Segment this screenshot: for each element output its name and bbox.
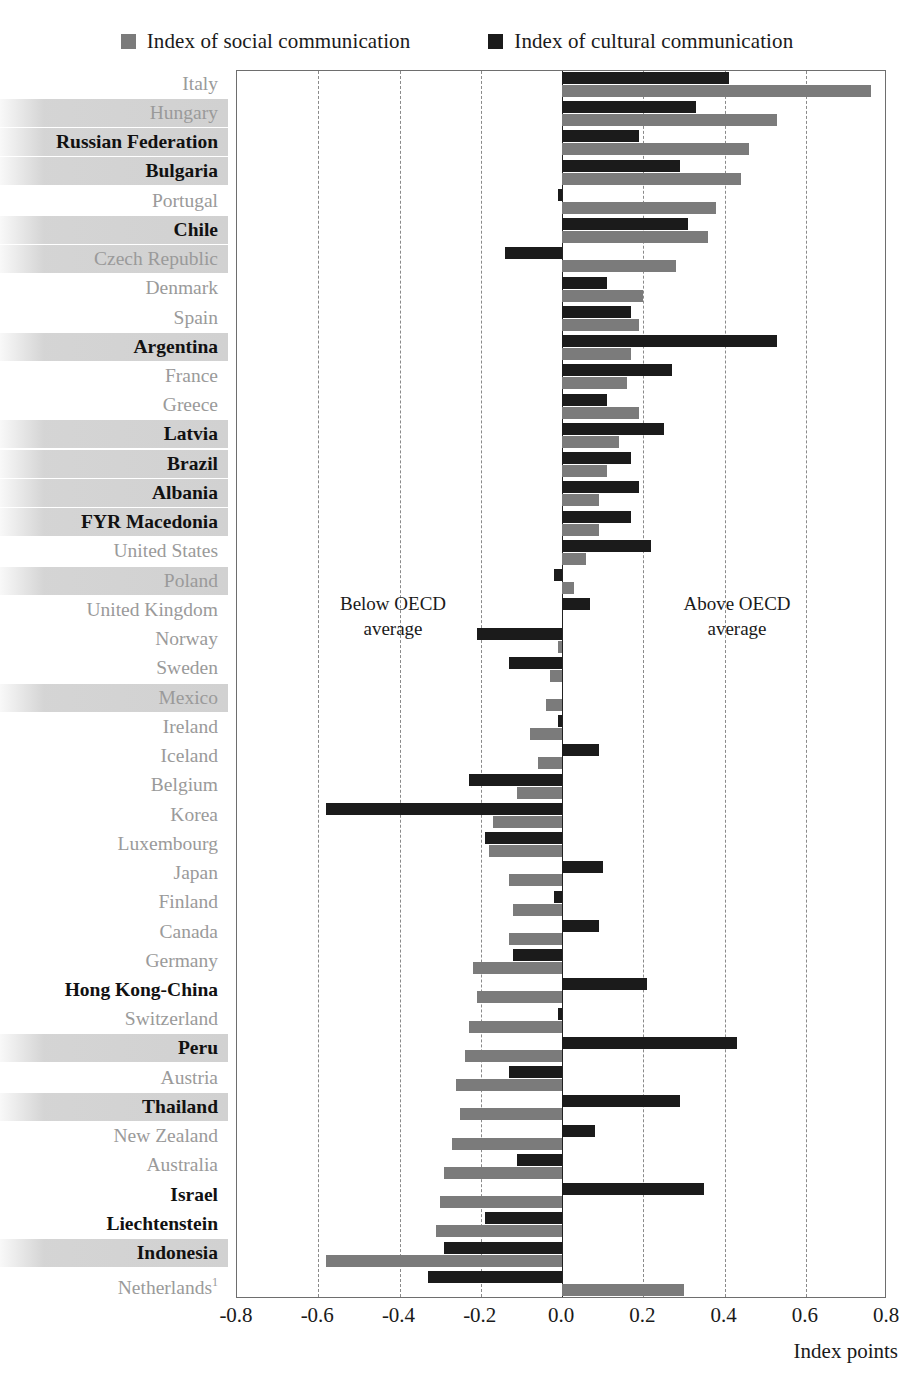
legend-item-cultural: Index of cultural communication — [488, 31, 793, 52]
country-label: Albania — [0, 479, 228, 507]
country-label: Greece — [0, 391, 228, 419]
country-label: Canada — [0, 918, 228, 946]
bar-cultural — [562, 1183, 704, 1195]
chart-row — [237, 159, 885, 188]
chart-row — [237, 129, 885, 158]
country-label-text: Belgium — [151, 774, 218, 795]
country-label-text: Australia — [147, 1154, 218, 1175]
bar-social — [444, 1167, 562, 1179]
country-label: Liechtenstein — [0, 1210, 228, 1238]
chart-legend: Index of social communication Index of c… — [0, 22, 914, 60]
bar-social — [562, 290, 643, 302]
bar-cultural — [562, 277, 607, 289]
country-label: FYR Macedonia — [0, 508, 228, 536]
x-axis-tick-label: 0.8 — [851, 1300, 914, 1330]
country-label-text: Russian Federation — [56, 131, 218, 152]
country-label: Australia — [0, 1151, 228, 1179]
chart-row — [237, 246, 885, 275]
x-axis-ticks: -0.8-0.6-0.4-0.20.00.20.40.60.8 — [236, 1300, 886, 1334]
bar-cultural — [517, 1154, 562, 1166]
bar-cultural — [562, 364, 672, 376]
x-axis-tick-label: -0.6 — [282, 1300, 352, 1330]
country-label-text: Poland — [164, 570, 218, 591]
bar-cultural — [562, 160, 680, 172]
country-label: Switzerland — [0, 1005, 228, 1033]
x-axis-tick-label: -0.4 — [364, 1300, 434, 1330]
chart-row — [237, 1153, 885, 1182]
x-axis-tick-label: 0.0 — [526, 1300, 596, 1330]
country-label: Indonesia — [0, 1239, 228, 1267]
country-label: Sweden — [0, 654, 228, 682]
chart-row — [237, 451, 885, 480]
bar-cultural — [509, 1066, 562, 1078]
bar-social — [513, 904, 562, 916]
country-label: Norway — [0, 625, 228, 653]
country-label: Chile — [0, 216, 228, 244]
country-label-text: Iceland — [161, 745, 218, 766]
country-label-text: Netherlands — [118, 1277, 212, 1298]
country-label: Finland — [0, 888, 228, 916]
bar-social — [562, 319, 639, 331]
chart-plot-area: Below OECD average Above OECD average — [236, 70, 886, 1298]
country-label: United Kingdom — [0, 596, 228, 624]
bar-cultural — [562, 394, 607, 406]
bar-cultural — [562, 423, 664, 435]
chart-row — [237, 1094, 885, 1123]
country-label-text: Austria — [161, 1067, 218, 1088]
chart-row — [237, 831, 885, 860]
chart-row — [237, 422, 885, 451]
bar-cultural — [554, 891, 562, 903]
country-label: Poland — [0, 567, 228, 595]
country-label-text: United Kingdom — [86, 599, 218, 620]
country-label-text: Indonesia — [137, 1242, 218, 1263]
country-label: Brazil — [0, 450, 228, 478]
country-label: United States — [0, 537, 228, 565]
bar-cultural — [326, 803, 562, 815]
bar-cultural — [485, 1212, 562, 1224]
bar-social — [562, 143, 749, 155]
country-label-text: Norway — [155, 628, 218, 649]
chart-row — [237, 685, 885, 714]
country-label: Portugal — [0, 187, 228, 215]
x-axis-tick-label: 0.6 — [770, 1300, 840, 1330]
country-label-text: Finland — [158, 891, 218, 912]
country-label: Netherlands1 — [0, 1268, 228, 1296]
bar-social — [469, 1021, 562, 1033]
bar-social — [562, 202, 716, 214]
bar-social — [562, 465, 607, 477]
chart-row — [237, 393, 885, 422]
chart-bars — [237, 71, 885, 1297]
bar-cultural — [562, 1125, 595, 1137]
country-label-text: Brazil — [167, 453, 218, 474]
country-label-text: United States — [113, 540, 218, 561]
country-label-text: Ireland — [163, 716, 218, 737]
bar-social — [460, 1108, 562, 1120]
bar-social — [562, 377, 627, 389]
chart-row — [237, 802, 885, 831]
bar-social — [538, 757, 562, 769]
country-label: Luxembourg — [0, 830, 228, 858]
chart-row — [237, 890, 885, 919]
chart-row — [237, 656, 885, 685]
chart-row — [237, 100, 885, 129]
chart-row — [237, 919, 885, 948]
country-label: Russian Federation — [0, 128, 228, 156]
bar-cultural — [562, 335, 777, 347]
bar-social — [477, 991, 562, 1003]
bar-social — [546, 699, 562, 711]
country-label: Belgium — [0, 771, 228, 799]
bar-cultural — [558, 715, 562, 727]
country-label-text: Portugal — [152, 190, 218, 211]
bar-social — [452, 1138, 562, 1150]
chart-row — [237, 480, 885, 509]
chart-row — [237, 1007, 885, 1036]
bar-cultural — [562, 861, 603, 873]
chart-row — [237, 1036, 885, 1065]
chart-row — [237, 1182, 885, 1211]
legend-swatch-social-icon — [121, 34, 136, 49]
bar-cultural — [485, 832, 562, 844]
chart-row — [237, 188, 885, 217]
chart-row — [237, 948, 885, 977]
bar-social — [440, 1196, 562, 1208]
bar-social — [562, 348, 631, 360]
